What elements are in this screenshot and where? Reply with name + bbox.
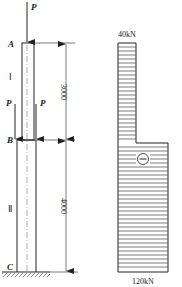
axial-force-diagram	[118, 43, 168, 272]
load-arrows	[15, 2, 36, 139]
fixed-support	[2, 272, 50, 277]
column-diagram: P P P A B C Ⅰ Ⅱ 3000 4000	[0, 0, 182, 287]
point-b-label: B	[6, 135, 13, 145]
top-force-value: 40kN	[118, 30, 136, 39]
dimension-3000: 3000	[59, 84, 68, 100]
dimension-lines	[34, 43, 78, 272]
top-load-label: P	[31, 2, 37, 12]
bottom-force-value: 120kN	[132, 277, 154, 286]
dimension-4000: 4000	[59, 198, 68, 214]
point-c-label: C	[7, 262, 14, 272]
left-load-label: P	[6, 98, 12, 108]
segment-1-label: Ⅰ	[9, 72, 12, 82]
right-load-label: P	[40, 98, 46, 108]
column	[17, 43, 36, 272]
point-a-label: A	[7, 39, 14, 49]
segment-2-label: Ⅱ	[8, 204, 12, 214]
